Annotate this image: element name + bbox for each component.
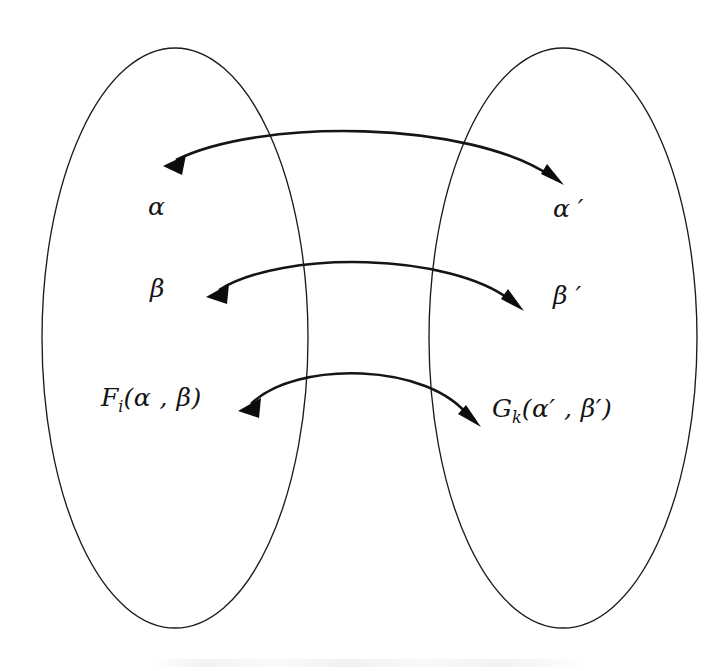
arrowhead-right-beta bbox=[501, 289, 524, 311]
label-function-F: Fi(α , β) bbox=[101, 385, 202, 415]
label-function-G: Gk(α′ , β′) bbox=[492, 396, 612, 426]
label-F-base: F bbox=[101, 383, 118, 412]
figure-canvas: α α ′ β β ′ Fi(α , β) Gk(α′ , β′) bbox=[0, 0, 725, 671]
double-arrow-alpha-curve bbox=[176, 131, 552, 177]
label-G-arguments: (α′ , β′) bbox=[522, 394, 613, 423]
arrowhead-left-function bbox=[238, 398, 261, 418]
label-G-subscript: k bbox=[512, 408, 522, 427]
arrowhead-left-beta bbox=[206, 284, 229, 304]
double-arrow-function-curve bbox=[251, 373, 470, 418]
double-arrow-beta bbox=[206, 262, 524, 311]
arrowhead-left-alpha bbox=[163, 155, 186, 175]
label-beta-prime: β ′ bbox=[553, 283, 581, 308]
double-arrow-function bbox=[238, 373, 481, 427]
double-arrow-beta-curve bbox=[219, 262, 513, 302]
clipped-caption-artifact bbox=[150, 659, 590, 667]
double-arrow-alpha bbox=[163, 131, 564, 185]
label-alpha-prime: α ′ bbox=[553, 196, 584, 221]
diagram-svg bbox=[0, 0, 725, 671]
label-G-base: G bbox=[492, 394, 512, 423]
arrowhead-right-alpha bbox=[541, 164, 564, 185]
right-set-ellipse bbox=[429, 48, 697, 628]
label-F-arguments: (α , β) bbox=[123, 383, 201, 412]
label-beta: β bbox=[150, 276, 164, 301]
label-alpha: α bbox=[148, 194, 165, 219]
